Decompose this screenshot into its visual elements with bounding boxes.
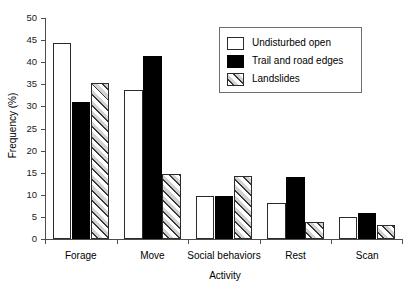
x-axis-category-label: Rest xyxy=(285,250,306,262)
legend-item-undisturbed-open: Undisturbed open xyxy=(227,34,361,52)
y-axis-tick-label: 40 xyxy=(11,57,37,67)
legend-item-label: Trail and road edges xyxy=(252,55,343,67)
y-axis-tick xyxy=(41,106,45,107)
bar xyxy=(91,83,110,239)
bar xyxy=(234,176,253,239)
y-axis-tick-label: 25 xyxy=(11,124,37,134)
x-axis-tick xyxy=(117,240,118,244)
y-axis-tick-label: 15 xyxy=(11,168,37,178)
x-axis-tick xyxy=(45,240,46,244)
y-axis-tick xyxy=(41,151,45,152)
legend-item-trail-and-road-edges: Trail and road edges xyxy=(227,52,361,70)
x-axis-category-label: Move xyxy=(140,250,164,262)
legend-swatch-icon xyxy=(227,37,244,50)
legend-swatch-icon xyxy=(227,55,244,68)
bar xyxy=(305,222,324,239)
bar xyxy=(143,56,162,239)
y-axis-tick-label: 0 xyxy=(11,234,37,244)
y-axis-tick-label: 5 xyxy=(11,212,37,222)
y-axis-tick-label: 45 xyxy=(11,35,37,45)
x-axis-category-label: Scan xyxy=(356,250,379,262)
bar xyxy=(196,196,215,239)
y-axis-tick xyxy=(41,195,45,196)
bar-chart-figure: Frequency (%) Activity 05101520253035404… xyxy=(0,0,410,291)
x-axis-tick xyxy=(402,240,403,244)
y-axis-tick xyxy=(41,40,45,41)
y-axis-tick xyxy=(41,84,45,85)
y-axis-tick-label: 20 xyxy=(11,146,37,156)
x-axis-category-label: Social behaviors xyxy=(187,250,260,262)
legend-item-landslides: Landslides xyxy=(227,70,361,88)
x-axis-label: Activity xyxy=(45,270,405,282)
bar xyxy=(377,225,396,239)
bar xyxy=(72,102,91,239)
legend-swatch-icon xyxy=(227,73,244,86)
chart-legend: Undisturbed open Trail and road edges La… xyxy=(219,27,362,93)
y-axis-tick xyxy=(41,217,45,218)
bar xyxy=(267,203,286,239)
x-axis-tick xyxy=(331,240,332,244)
bar xyxy=(339,217,358,239)
bar xyxy=(358,213,377,239)
y-axis-tick xyxy=(41,18,45,19)
bar xyxy=(124,90,143,239)
bar xyxy=(215,196,234,239)
x-axis-tick xyxy=(188,240,189,244)
y-axis-tick xyxy=(41,129,45,130)
legend-item-label: Landslides xyxy=(252,73,300,85)
bar xyxy=(162,174,181,239)
y-axis-tick-label: 50 xyxy=(11,13,37,23)
bar xyxy=(53,43,72,239)
legend-item-label: Undisturbed open xyxy=(252,37,331,49)
x-axis-category-label: Forage xyxy=(65,250,97,262)
bar xyxy=(286,177,305,239)
y-axis-tick xyxy=(41,173,45,174)
y-axis-line xyxy=(45,18,46,240)
y-axis-tick-label: 30 xyxy=(11,101,37,111)
x-axis-tick xyxy=(260,240,261,244)
y-axis-tick-label: 10 xyxy=(11,190,37,200)
y-axis-tick xyxy=(41,62,45,63)
y-axis-tick-label: 35 xyxy=(11,79,37,89)
x-axis-line xyxy=(45,239,403,240)
